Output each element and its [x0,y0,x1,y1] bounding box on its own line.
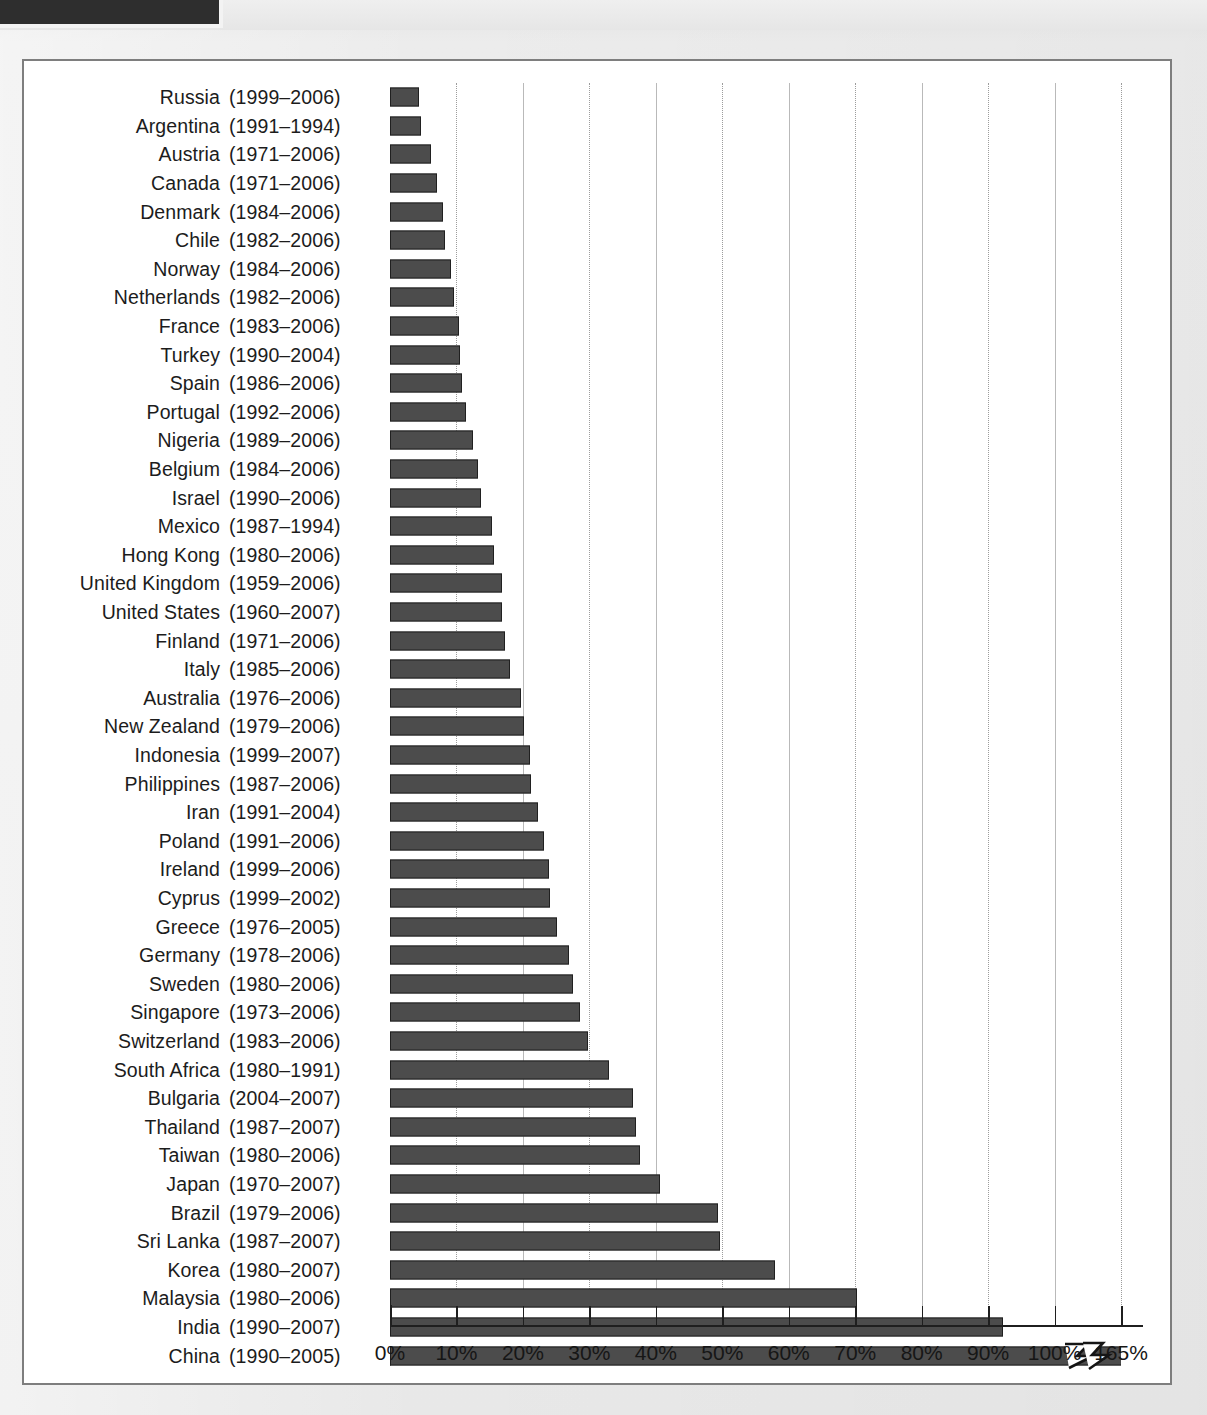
bar [390,488,481,507]
country-name: Bulgaria [148,1087,220,1110]
x-tick-label: 0% [375,1341,405,1365]
x-tick [523,1306,525,1325]
x-tick-label: 70% [834,1341,876,1365]
x-tick-label: 165% [1094,1341,1148,1365]
chart-row: Poland(1991–2006) [24,827,1170,856]
country-name: Russia [160,86,220,109]
category-label: Germany(1978–2006) [139,944,371,967]
category-label: Ireland(1999–2006) [160,858,371,881]
bar [390,831,544,850]
bar [390,631,505,650]
category-label: Austria(1971–2006) [159,143,371,166]
country-name: India [177,1316,220,1339]
country-name: Malaysia [142,1287,220,1310]
category-label: Sri Lanka(1987–2007) [137,1230,371,1253]
x-tick [722,1306,724,1325]
x-tick [589,1306,591,1325]
period-years: (1991–2004) [229,801,371,824]
period-years: (1970–2007) [229,1173,371,1196]
category-label: Spain(1986–2006) [170,372,371,395]
chart-row: Sri Lanka(1987–2007) [24,1227,1170,1256]
bar [390,317,459,336]
x-tick [1121,1306,1123,1325]
bar [390,545,494,564]
period-years: (1990–2007) [229,1316,371,1339]
category-label: Iran(1991–2004) [186,801,371,824]
period-years: (1987–2007) [229,1115,371,1138]
category-label: Greece(1976–2005) [155,915,371,938]
country-name: United Kingdom [80,572,220,595]
period-years: (1973–2006) [229,1001,371,1024]
period-years: (1999–2006) [229,858,371,881]
category-label: Nigeria(1989–2006) [158,429,371,452]
category-label: Argentina(1991–1994) [136,114,371,137]
country-name: Italy [184,658,220,681]
country-name: Australia [143,686,220,709]
category-label: Portugal(1992–2006) [147,400,371,423]
chart-row: Canada(1971–2006) [24,169,1170,198]
chart-row: Korea(1980–2007) [24,1256,1170,1285]
category-label: New Zealand(1979–2006) [104,715,371,738]
category-label: Singapore(1973–2006) [130,1001,371,1024]
period-years: (1980–2006) [229,972,371,995]
period-years: (1971–2006) [229,629,371,652]
bar [390,202,443,221]
country-name: Portugal [147,400,220,423]
category-label: Italy(1985–2006) [184,658,371,681]
chart-row: Indonesia(1999–2007) [24,741,1170,770]
chart-row: Japan(1970–2007) [24,1170,1170,1199]
chart-row: Ireland(1999–2006) [24,855,1170,884]
bar [390,231,445,250]
x-tick-label: 40% [635,1341,677,1365]
period-years: (1986–2006) [229,372,371,395]
country-name: Nigeria [158,429,220,452]
period-years: (1971–2006) [229,143,371,166]
x-tick [456,1306,458,1325]
chart-row: Mexico(1987–1994) [24,512,1170,541]
chart-row: Malaysia(1980–2006) [24,1284,1170,1313]
category-label: Mexico(1987–1994) [158,515,371,538]
bar [390,174,437,193]
period-years: (1980–2006) [229,1144,371,1167]
bar [390,660,510,679]
x-tick-label: 30% [568,1341,610,1365]
category-label: Japan(1970–2007) [166,1173,371,1196]
chart-row: Taiwan(1980–2006) [24,1141,1170,1170]
chart-row: United States(1960–2007) [24,598,1170,627]
bar [390,1260,775,1279]
country-name: Norway [153,257,220,280]
chart-row: Spain(1986–2006) [24,369,1170,398]
bar [390,345,460,364]
period-years: (1987–2006) [229,772,371,795]
period-years: (1983–2006) [229,315,371,338]
chart-row: Philippines(1987–2006) [24,769,1170,798]
chart-row: Iran(1991–2004) [24,798,1170,827]
period-years: (1984–2006) [229,458,371,481]
category-label: Sweden(1980–2006) [149,972,371,995]
period-years: (1978–2006) [229,944,371,967]
bar [390,574,502,593]
country-name: Germany [139,944,220,967]
bar [390,803,538,822]
chart-row: South Africa(1980–1991) [24,1055,1170,1084]
period-years: (1989–2006) [229,429,371,452]
bar [390,1146,640,1165]
country-name: Canada [151,172,220,195]
bar [390,774,531,793]
country-name: Mexico [158,515,220,538]
category-label: United Kingdom(1959–2006) [80,572,371,595]
bar [390,431,473,450]
x-tick-label: 80% [901,1341,943,1365]
period-years: (1987–1994) [229,515,371,538]
country-name: New Zealand [104,715,220,738]
country-name: Cyprus [158,887,220,910]
category-label: South Africa(1980–1991) [114,1058,371,1081]
chart-row: Austria(1971–2006) [24,140,1170,169]
bar [390,889,550,908]
category-label: Finland(1971–2006) [155,629,371,652]
bar [390,1203,718,1222]
country-name: Switzerland [118,1030,220,1053]
category-label: Brazil(1979–2006) [171,1201,371,1224]
category-label: Chile(1982–2006) [175,229,371,252]
category-label: Australia(1976–2006) [143,686,371,709]
